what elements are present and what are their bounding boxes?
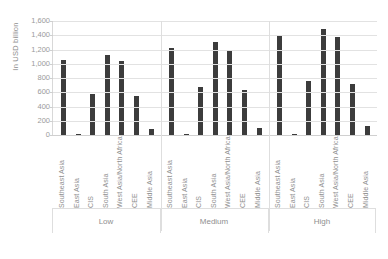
category-axis-label: CEE	[347, 193, 354, 208]
axis-tickmark	[50, 78, 53, 79]
bar	[306, 81, 311, 135]
category-axis-label: East Asia	[73, 178, 80, 208]
group-axis-band: LowMediumHigh	[52, 208, 376, 233]
category-axis-labels: Southeast AsiaEast AsiaCISSouth AsiaWest…	[52, 136, 376, 208]
bar	[61, 60, 66, 135]
category-axis-label: South Asia	[210, 174, 217, 208]
category-axis-label: Middle Asia	[146, 171, 153, 208]
category-axis-label: East Asia	[289, 178, 296, 208]
bar	[119, 61, 124, 135]
group-axis-left-edge	[52, 209, 53, 233]
category-axis-label: Southeast Asia	[58, 160, 65, 208]
group-label-low: Low	[52, 209, 160, 233]
bar	[365, 126, 370, 135]
bar	[257, 128, 262, 135]
category-axis-label: Southeast Asia	[166, 160, 173, 208]
y-axis-tick-label: 1,200	[31, 46, 50, 54]
y-axis-tick-label: 200	[37, 117, 50, 125]
y-axis-tick-label: 600	[37, 88, 50, 96]
category-axis-label: Middle Asia	[254, 171, 261, 208]
axis-tickmark	[50, 121, 53, 122]
category-axis-label: Southeast Asia	[274, 160, 281, 208]
category-axis-label: South Asia	[102, 174, 109, 208]
category-axis-label: CIS	[303, 196, 310, 208]
y-axis-tick-label: 800	[37, 74, 50, 82]
gridline	[53, 35, 377, 36]
category-axis-label: South Asia	[318, 174, 325, 208]
gridline	[53, 64, 377, 65]
category-axis-label: East Asia	[181, 178, 188, 208]
gridline	[53, 21, 377, 22]
y-axis-tick-label: 400	[37, 103, 50, 111]
category-axis-label: CEE	[239, 193, 246, 208]
bar-chart: In USD billion 1,6001,4001,2001,00080060…	[0, 0, 388, 259]
bar	[134, 96, 139, 135]
category-axis-label: West Asia/North Africa	[332, 136, 339, 208]
axis-tickmark	[50, 50, 53, 51]
y-axis-tick-label: 1,000	[31, 60, 50, 68]
plot-area	[52, 21, 377, 135]
axis-tickmark	[50, 92, 53, 93]
axis-tickmark	[50, 35, 53, 36]
bar	[105, 55, 110, 135]
group-label-high: High	[268, 209, 376, 233]
y-axis-tick-label: 1,400	[31, 31, 50, 39]
gridline	[53, 50, 377, 51]
category-axis-label: CEE	[131, 193, 138, 208]
axis-tickmark	[50, 64, 53, 65]
y-axis-tick-labels: 1,6001,4001,2001,0008006004002000	[16, 17, 50, 139]
bar	[198, 87, 203, 135]
gridline	[53, 92, 377, 93]
gridline	[53, 121, 377, 122]
bar	[321, 29, 326, 135]
gridline	[53, 78, 377, 79]
category-axis-label: Middle Asia	[362, 171, 369, 208]
group-axis-right-edge	[375, 209, 376, 233]
axis-tickmark	[50, 21, 53, 22]
category-axis-label: West Asia/North Africa	[116, 136, 123, 208]
y-axis-tick-label: 1,600	[31, 17, 50, 25]
category-axis-label: CIS	[87, 196, 94, 208]
category-axis-label: West Asia/North Africa	[224, 136, 231, 208]
bar	[242, 90, 247, 135]
axis-tickmark	[50, 107, 53, 108]
group-divider	[160, 209, 161, 233]
bar	[90, 94, 95, 135]
group-label-medium: Medium	[160, 209, 268, 233]
category-axis-label: CIS	[195, 196, 202, 208]
gridline	[53, 107, 377, 108]
group-divider	[268, 209, 269, 233]
